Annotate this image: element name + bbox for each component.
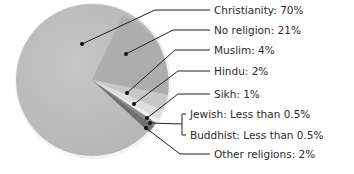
label-christianity: Christianity: 70% — [214, 4, 304, 16]
label-buddhist: Buddhist: Less than 0.5% — [190, 129, 324, 141]
label-hindu: Hindu: 2% — [214, 65, 268, 77]
label-jewish: Jewish: Less than 0.5% — [189, 108, 310, 120]
label-no-religion: No religion: 21% — [214, 24, 301, 36]
pie-chart: Christianity: 70% No religion: 21% Musli… — [0, 0, 354, 174]
label-sikh: Sikh: 1% — [214, 88, 260, 100]
label-other-religions: Other religions: 2% — [214, 148, 315, 160]
label-muslim: Muslim: 4% — [214, 44, 275, 56]
